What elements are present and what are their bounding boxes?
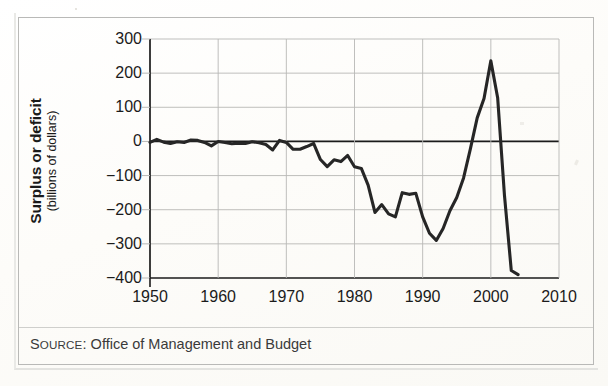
y-tick-label: −100 <box>106 167 142 185</box>
source-prefix-lead: S <box>30 336 40 352</box>
x-tick-label: 1980 <box>337 288 373 306</box>
x-tick-label: 1960 <box>200 288 236 306</box>
y-tick-label: 100 <box>115 98 142 116</box>
source-text: Office of Management and Budget <box>87 336 312 352</box>
x-axis-tick-labels: 1950196019701980199020002010 <box>0 288 608 312</box>
y-tick-label: −300 <box>106 235 142 253</box>
y-tick-label: −200 <box>106 201 142 219</box>
y-axis-tick-labels: 3002001000−100−200−300−400 <box>78 0 142 386</box>
axes <box>142 39 150 287</box>
x-tick-label: 1990 <box>405 288 441 306</box>
x-tick-label: 1950 <box>132 288 168 306</box>
gridlines <box>150 39 559 278</box>
x-tick-label: 1970 <box>269 288 305 306</box>
data-line-surplus-deficit <box>150 61 518 275</box>
source-prefix-rest: OURCE <box>40 338 83 351</box>
source-divider <box>19 327 593 328</box>
x-tick-label: 2000 <box>473 288 509 306</box>
source-note: SOURCE: Office of Management and Budget <box>30 336 311 352</box>
y-tick-label: 0 <box>133 132 142 150</box>
figure-page: Surplus or deficit (billions of dollars)… <box>0 0 608 386</box>
x-tick-label: 2010 <box>541 288 577 306</box>
y-tick-label: 200 <box>115 64 142 82</box>
y-tick-label: −400 <box>106 269 142 287</box>
y-tick-label: 300 <box>115 30 142 48</box>
